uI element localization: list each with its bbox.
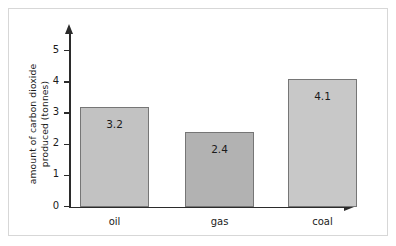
category-label-coal: coal	[288, 216, 357, 227]
y-tick-label: 4	[35, 75, 59, 86]
y-tick-label: 0	[35, 200, 59, 211]
x-axis-line	[69, 207, 345, 209]
bar-value-coal: 4.1	[289, 90, 356, 102]
bar-coal: 4.1	[288, 79, 357, 207]
category-label-gas: gas	[185, 216, 254, 227]
y-axis-label-line2: produced (tonnes)	[39, 39, 51, 209]
bar-value-oil: 3.2	[81, 118, 148, 130]
y-tick-mark	[64, 81, 70, 82]
y-axis-arrow-icon	[65, 24, 73, 34]
bar-gas: 2.4	[185, 132, 254, 207]
y-tick-label: 1	[35, 168, 59, 179]
y-tick-label: 2	[35, 137, 59, 148]
y-tick-mark	[64, 144, 70, 145]
y-tick-mark	[64, 50, 70, 51]
y-tick-mark	[64, 175, 70, 176]
category-label-oil: oil	[80, 216, 149, 227]
y-tick-mark	[64, 112, 70, 113]
y-tick-mark	[64, 206, 70, 207]
bar-chart-figure: amount of carbon dioxide produced (tonne…	[0, 0, 396, 246]
plot-area: amount of carbon dioxide produced (tonne…	[0, 0, 396, 246]
y-axis-label-line1: amount of carbon dioxide	[27, 39, 39, 209]
bar-value-gas: 2.4	[186, 143, 253, 155]
y-axis-line	[69, 33, 71, 208]
bar-oil: 3.2	[80, 107, 149, 207]
y-tick-label: 5	[35, 44, 59, 55]
y-axis-label: amount of carbon dioxide produced (tonne…	[27, 39, 51, 209]
y-tick-label: 3	[35, 106, 59, 117]
